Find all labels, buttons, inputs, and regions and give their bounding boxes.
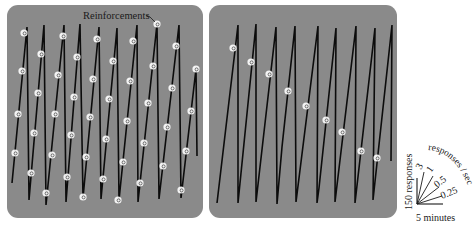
reinforcement-mark-center bbox=[360, 150, 363, 153]
reinforcement-mark-center bbox=[54, 113, 57, 116]
reinforcement-mark-center bbox=[70, 134, 73, 137]
reinforcement-mark-center bbox=[76, 56, 79, 59]
reinforcement-mark-center bbox=[33, 132, 36, 135]
reinforcement-mark-center bbox=[92, 78, 95, 81]
y-scale-label: 150 responses bbox=[403, 154, 414, 210]
reinforcement-mark-center bbox=[139, 182, 142, 185]
reinforcement-mark-center bbox=[117, 199, 120, 202]
reinforcement-mark-center bbox=[268, 73, 271, 76]
cumulative-record-figure: Reinforcements 3 1 0.5 0.25 responses / … bbox=[0, 0, 474, 229]
reinforcement-mark-center bbox=[85, 156, 88, 159]
reinforcement-mark-center bbox=[82, 196, 85, 199]
right-panel bbox=[209, 5, 397, 218]
rate-legend: 3 1 0.5 0.25 responses / sec 150 respons… bbox=[403, 142, 474, 223]
reinforcement-mark-center bbox=[305, 105, 308, 108]
reinforcement-mark-center bbox=[21, 70, 24, 73]
reinforcements-annotation: Reinforcements bbox=[83, 10, 149, 21]
left-panel: Reinforcements bbox=[7, 5, 203, 218]
reinforcement-mark-center bbox=[190, 110, 193, 113]
reinforcement-mark-center bbox=[147, 102, 150, 105]
reinforcement-mark-center bbox=[287, 90, 290, 93]
reinforcement-mark-center bbox=[96, 38, 99, 41]
reinforcement-mark-center bbox=[171, 87, 174, 90]
reinforcement-mark-center bbox=[185, 150, 188, 153]
reinforcement-mark-center bbox=[250, 61, 253, 64]
reinforcement-mark-center bbox=[40, 53, 43, 56]
reinforcement-mark-center bbox=[376, 157, 379, 160]
rate-label-3: 3 bbox=[413, 161, 425, 171]
reinforcement-mark-center bbox=[325, 119, 328, 122]
reinforcement-mark-center bbox=[73, 96, 76, 99]
x-scale-label: 5 minutes bbox=[416, 212, 455, 223]
reinforcement-mark-center bbox=[45, 192, 48, 195]
reinforcement-mark-center bbox=[195, 68, 198, 71]
reinforcement-mark-center bbox=[166, 126, 169, 129]
reinforcement-mark-center bbox=[129, 80, 132, 83]
reinforcement-mark-center bbox=[105, 138, 108, 141]
reinforcement-mark-center bbox=[180, 189, 183, 192]
reinforcement-mark-center bbox=[126, 120, 129, 123]
reinforcement-mark-center bbox=[132, 40, 135, 43]
rate-label-1: 1 bbox=[424, 164, 436, 174]
reinforcement-mark-center bbox=[108, 98, 111, 101]
reinforcement-mark-center bbox=[156, 23, 159, 26]
reinforcement-mark-center bbox=[62, 35, 65, 38]
reinforcement-mark-center bbox=[341, 131, 344, 134]
reinforcement-mark-center bbox=[152, 65, 155, 68]
reinforcement-mark-center bbox=[112, 60, 115, 63]
reinforcement-mark-center bbox=[143, 142, 146, 145]
reinforcement-mark-center bbox=[175, 45, 178, 48]
reinforcement-mark-center bbox=[23, 32, 26, 35]
reinforcement-mark-center bbox=[17, 113, 20, 116]
reinforcement-mark-center bbox=[66, 176, 69, 179]
reinforcement-mark-center bbox=[30, 172, 33, 175]
reinforcement-mark-center bbox=[122, 161, 125, 164]
reinforcement-mark-center bbox=[102, 178, 105, 181]
reinforcement-mark-center bbox=[232, 47, 235, 50]
reinforcement-mark-center bbox=[14, 152, 17, 155]
reinforcement-mark-center bbox=[57, 74, 60, 77]
reinforcement-mark-center bbox=[37, 92, 40, 95]
reinforcement-mark-center bbox=[51, 154, 54, 157]
reinforcement-mark-center bbox=[162, 165, 165, 168]
reinforcement-mark-center bbox=[89, 116, 92, 119]
